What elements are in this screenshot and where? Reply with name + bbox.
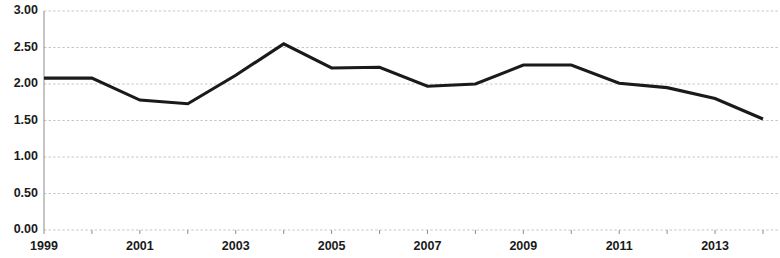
x-axis-labels: 19992001200320052007200920112013 <box>30 239 729 253</box>
y-tick-label-0.00: 0.00 <box>14 222 38 236</box>
y-axis-labels: 0.000.501.001.502.002.503.00 <box>14 3 38 236</box>
y-tick-label-1.00: 1.00 <box>14 149 38 163</box>
y-tick-label-3.00: 3.00 <box>14 3 38 17</box>
x-tick-label-2011: 2011 <box>606 239 633 253</box>
x-tick-label-2003: 2003 <box>222 239 250 253</box>
gridlines-group <box>44 11 780 230</box>
y-tick-label-2.00: 2.00 <box>14 76 38 90</box>
y-tick-label-1.50: 1.50 <box>14 113 38 127</box>
x-axis-ticks <box>44 230 763 234</box>
x-tick-label-2013: 2013 <box>701 239 729 253</box>
x-tick-label-2001: 2001 <box>126 239 154 253</box>
x-tick-label-2009: 2009 <box>509 239 537 253</box>
y-tick-label-2.50: 2.50 <box>14 40 38 54</box>
data-series-line-0 <box>44 44 763 119</box>
x-tick-label-2005: 2005 <box>318 239 346 253</box>
chart-canvas: 0.000.501.001.502.002.503.00199920012003… <box>0 0 780 258</box>
y-tick-label-0.50: 0.50 <box>14 186 38 200</box>
x-tick-label-1999: 1999 <box>30 239 58 253</box>
line-chart: 0.000.501.001.502.002.503.00199920012003… <box>0 0 780 258</box>
x-tick-label-2007: 2007 <box>414 239 442 253</box>
